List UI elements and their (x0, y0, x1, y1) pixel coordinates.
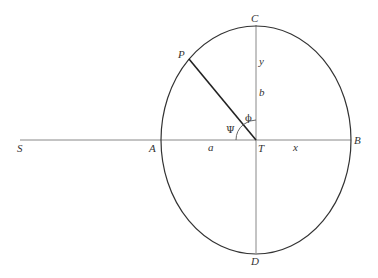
label-b: B (354, 134, 361, 146)
segment-label-x: x (292, 141, 298, 153)
radius-line-tp (189, 59, 256, 140)
segment-label-b: b (259, 86, 265, 98)
label-s: S (17, 142, 23, 154)
segment-label-a: a (208, 141, 214, 153)
label-p: P (177, 48, 185, 60)
ellipse-diagram: S A T B C D P a x y b ϕ Ψ (0, 0, 378, 278)
angle-label-phi: ϕ (245, 112, 252, 123)
angle-arc-psi (236, 125, 243, 140)
segment-label-y: y (258, 55, 264, 67)
label-a: A (148, 142, 156, 154)
label-t: T (258, 142, 265, 154)
label-d: D (250, 255, 259, 267)
label-c: C (251, 12, 259, 24)
angle-label-psi: Ψ (226, 124, 235, 135)
